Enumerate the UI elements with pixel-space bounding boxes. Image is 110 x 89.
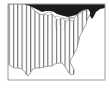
map-svg	[0, 0, 110, 89]
map-figure	[0, 0, 110, 89]
map-content	[8, 4, 105, 76]
